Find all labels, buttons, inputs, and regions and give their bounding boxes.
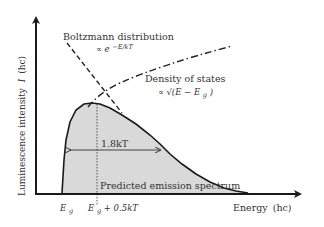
emission-label: Predicted emission spectrum xyxy=(100,180,240,191)
x-axis-label: Energy (hc) xyxy=(233,202,292,213)
boltzmann-curve xyxy=(67,43,122,113)
emission-spectrum-diagram: 1.8kT Luminescence intensity I (hc) Bolt… xyxy=(0,0,324,227)
density-of-states-label: Density of states xyxy=(145,73,226,84)
y-axis-label: Luminescence intensity I (hc) xyxy=(17,56,27,196)
boltzmann-formula: ∝ e −E/kT xyxy=(96,43,134,54)
x-tick-eg-half-kt: E g + 0.5kT xyxy=(87,203,139,215)
x-tick-eg: E g xyxy=(59,203,73,215)
fwhm-label: 1.8kT xyxy=(101,138,129,149)
svg-text:Luminescence intensity I: Luminescence intensity I (hc) xyxy=(17,56,27,196)
density-of-states-formula: ∝ √(E − E g ) xyxy=(158,87,213,99)
boltzmann-label: Boltzmann distribution xyxy=(63,31,174,42)
